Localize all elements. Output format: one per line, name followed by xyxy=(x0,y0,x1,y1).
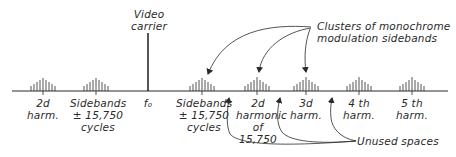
cluster-sidebands-left xyxy=(84,78,108,95)
clusters-note-label: Clusters of monochrome modulation sideba… xyxy=(317,20,451,44)
cluster-2d-harm-left xyxy=(31,78,55,95)
cluster-4th-harm xyxy=(347,77,371,95)
sidebands-left-label: Sidebands ± 15,750 cycles xyxy=(70,97,126,133)
cluster-sidebands-right xyxy=(190,78,214,95)
harmonic2-right-label: 2d harmonic of 15,750 xyxy=(236,97,280,145)
cluster-3d-harm xyxy=(294,77,318,95)
harm5-label: 5 th harm. xyxy=(393,97,431,121)
f0-label: f₀ xyxy=(138,97,158,109)
harm2-left-label: 2d harm. xyxy=(23,97,63,121)
video-carrier-label: Video carrier xyxy=(126,8,172,32)
sidebands-right-label: Sidebands ± 15,750 cycles xyxy=(176,97,232,133)
unused-spaces-label: Unused spaces xyxy=(357,135,439,147)
cluster-arrows xyxy=(208,26,311,74)
harm3-label: 3d harm. xyxy=(288,97,324,121)
sideband-spectrum-diagram: Video carrier Clusters of monochrome mod… xyxy=(0,0,456,157)
cluster-2d-harmonic-right xyxy=(245,77,269,95)
harm4-label: 4 th harm. xyxy=(340,97,378,121)
cluster-5th-harm xyxy=(400,77,424,95)
